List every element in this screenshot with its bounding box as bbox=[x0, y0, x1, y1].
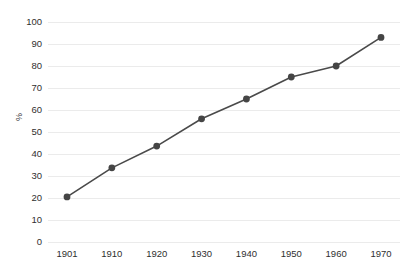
data-point bbox=[243, 96, 250, 103]
data-point bbox=[153, 143, 160, 150]
data-markers bbox=[64, 34, 385, 200]
data-point bbox=[198, 115, 205, 122]
line-chart: % 0102030405060708090100 190119101920193… bbox=[0, 0, 411, 273]
x-axis-tick-label: 1910 bbox=[89, 248, 135, 259]
x-axis-tick-label: 1920 bbox=[134, 248, 180, 259]
data-point bbox=[333, 63, 340, 70]
plot-area bbox=[0, 0, 411, 273]
x-axis-tick-label: 1930 bbox=[179, 248, 225, 259]
x-axis-tick-label: 1950 bbox=[268, 248, 314, 259]
data-point bbox=[288, 74, 295, 81]
data-point bbox=[108, 164, 115, 171]
data-point bbox=[378, 34, 385, 41]
gridlines bbox=[48, 23, 400, 243]
x-axis-tick-label: 1960 bbox=[313, 248, 359, 259]
x-axis-tick-label: 1901 bbox=[44, 248, 90, 259]
x-axis-tick-label: 1940 bbox=[223, 248, 269, 259]
data-line bbox=[67, 37, 381, 197]
data-point bbox=[64, 194, 71, 201]
x-axis-tick-label: 1970 bbox=[358, 248, 404, 259]
